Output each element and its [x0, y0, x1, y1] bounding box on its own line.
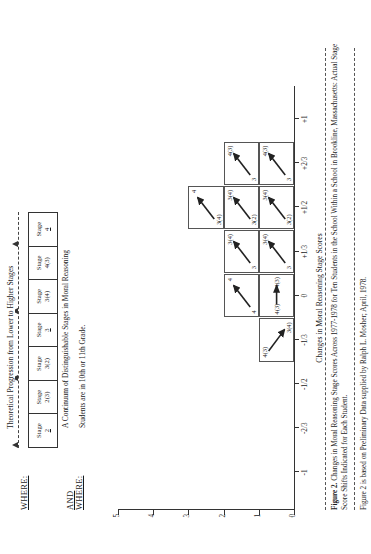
stage-to-label: 4(3) — [226, 146, 233, 157]
x-axis-tick — [294, 206, 299, 207]
stage-from-label: 3(4) — [215, 214, 222, 225]
stage-name: Stage — [35, 423, 43, 438]
progression-dashed-line — [18, 212, 19, 448]
x-axis-tick-label: +1 — [301, 105, 309, 133]
stage-value: 2 — [43, 429, 51, 432]
x-axis-tick-label: -2/3 — [301, 414, 309, 442]
stage-name: Stage — [35, 356, 43, 371]
stage-cell: Stage 3 — [29, 313, 57, 347]
x-axis-tick-label: -1 — [301, 458, 309, 486]
stage-name: Stage — [35, 323, 43, 338]
stage-to-label: 4(3) — [273, 277, 280, 288]
y-axis-tick-label: 5 — [113, 514, 121, 528]
y-axis-tick-label: 4 — [148, 514, 156, 528]
caption-divider — [325, 48, 326, 510]
x-axis-tick — [294, 162, 299, 163]
stage-shift-cell: 33(4) — [259, 230, 294, 273]
where-label: WHERE: — [20, 476, 29, 510]
stage-shift-cell: 3(4)4 — [188, 186, 223, 229]
stage-value: 4(3) — [43, 257, 51, 268]
stage-to-label: 3(4) — [261, 190, 268, 201]
progression-caption: Theoretical Progression from Lower to Hi… — [6, 263, 15, 432]
x-axis-tick — [294, 427, 299, 428]
stage-name: Stage — [35, 256, 43, 271]
x-axis-tick — [294, 295, 299, 296]
stage-shift-cell: 44 — [224, 274, 259, 317]
stage-name: Stage — [35, 222, 43, 237]
x-axis-tick — [294, 118, 299, 119]
x-axis-tick-label: +1/3 — [301, 238, 309, 266]
stage-shift-cell: 3(2)3(4) — [224, 186, 259, 229]
stage-shift-cell: 3(2)3(4) — [259, 186, 294, 229]
stage-to-label: 3(4) — [226, 190, 233, 201]
continuum-caption: A Continuum of Distinguishable Stages in… — [61, 250, 70, 428]
caption-source: Figure 2 is based on Preliminary Data su… — [359, 40, 369, 510]
figure-canvas: WHERE: AND WHERE: Theoretical Progressio… — [0, 0, 371, 554]
x-axis-tick — [294, 471, 299, 472]
stage-shift-cell: 34(3) — [224, 142, 259, 185]
stage-shift-cell: 33(4) — [224, 230, 259, 273]
stage-cell: Stage 3(4) — [29, 279, 57, 313]
stage-continuum-legend: WHERE: AND WHERE: Theoretical Progressio… — [6, 210, 102, 510]
x-axis-tick-label: +1/2 — [301, 193, 309, 221]
y-axis-tick-label: 0 — [289, 514, 297, 528]
stage-to-label: 3(4) — [261, 234, 268, 245]
x-axis-tick-label: -1/3 — [301, 326, 309, 354]
stage-from-label: 4(3) — [273, 304, 280, 315]
stage-to-label: 4(3) — [261, 146, 268, 157]
stage-from-label: 3(2) — [285, 214, 292, 225]
y-axis — [118, 509, 294, 510]
y-axis-tick-label: 2 — [219, 514, 227, 528]
x-axis-tick-label: 0 — [301, 282, 309, 310]
stage-value: 3(2) — [43, 358, 51, 369]
stage-cell: Stage 3(2) — [29, 346, 57, 380]
progression-arrow-icon — [12, 241, 18, 247]
stage-value: 4 — [43, 228, 51, 231]
x-axis-tick — [294, 383, 299, 384]
stage-cell: Stage 2 — [29, 413, 57, 447]
caption-body: Changes in Moral Reasoning Stage Scores … — [331, 44, 349, 510]
stage-value: 3 — [43, 328, 51, 331]
stage-cell: Stage 4 — [29, 213, 57, 246]
y-axis-tick-label: 3 — [183, 514, 191, 528]
stage-from-label: 3 — [250, 178, 257, 181]
stage-value: 3(4) — [43, 291, 51, 302]
stage-shift-cell: 4(3)4(3) — [259, 274, 294, 317]
stage-name: Stage — [35, 289, 43, 304]
stage-scale-row: Stage 2 Stage 2(3) Stage 3(2) Stage 3 St… — [28, 212, 58, 448]
stage-shift-cell: 34(3) — [259, 142, 294, 185]
caption-main: Figure 2. Changes in Moral Reasoning Sta… — [330, 40, 351, 510]
caption-number: Figure 2. — [331, 483, 339, 510]
stage-to-label: 4 — [226, 278, 233, 281]
stage-from-label: 3 — [285, 266, 292, 269]
grade-caption: Students are in 10th or 11th Grade. — [78, 325, 87, 428]
figure-caption: Figure 2. Changes in Moral Reasoning Sta… — [322, 40, 369, 510]
y-axis-tick-label: 1 — [254, 514, 262, 528]
stage-to-label: 4 — [190, 190, 197, 193]
stage-name: Stage — [35, 390, 43, 405]
stage-cell: Stage 2(3) — [29, 380, 57, 414]
caption-divider — [354, 48, 355, 510]
progression-arrow-icon — [12, 442, 18, 448]
stage-to-label: 3(4) — [226, 234, 233, 245]
stage-shift-cell: 4(3)3(4) — [259, 318, 294, 361]
stage-from-label: 4 — [250, 310, 257, 313]
x-axis-tick — [294, 251, 299, 252]
stage-to-label: 3(4) — [285, 322, 292, 333]
x-axis — [294, 86, 295, 510]
and-where-label: AND WHERE: — [66, 476, 84, 510]
x-axis-tick-label: +2/3 — [301, 149, 309, 177]
stage-from-label: 3(2) — [250, 214, 257, 225]
stage-cell: Stage 4(3) — [29, 246, 57, 280]
stage-from-label: 4(3) — [261, 347, 268, 358]
and-where-line2: WHERE: — [75, 476, 84, 510]
stage-from-label: 3 — [285, 178, 292, 181]
x-axis-tick-label: -1/2 — [301, 370, 309, 398]
stage-value: 2(3) — [43, 392, 51, 403]
stage-from-label: 3 — [250, 266, 257, 269]
stage-change-plot: 012345-1-2/3-1/2-1/30+1/3+1/2+2/3+1 4(3)… — [118, 86, 314, 510]
x-axis-tick — [294, 339, 299, 340]
